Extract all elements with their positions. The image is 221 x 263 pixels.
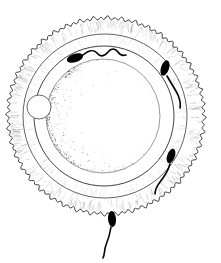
- ovum-fertilization-illustration: [0, 0, 221, 263]
- polar-body: [27, 95, 51, 119]
- figure-root: Ovum surrounded by corona radiata with s…: [0, 0, 221, 263]
